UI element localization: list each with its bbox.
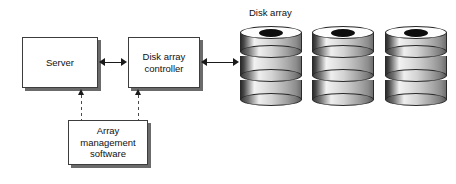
platter-bottom-ellipse xyxy=(312,69,374,82)
platter-bottom-ellipse xyxy=(385,45,447,58)
connector-dashed-shaft xyxy=(81,95,82,120)
connector-controller-to-disk-array xyxy=(201,58,239,67)
node-server[interactable]: Server xyxy=(22,37,98,88)
server-box-shadow-bottom xyxy=(25,88,101,91)
ams-box-shadow-right xyxy=(148,123,151,168)
diagram-canvas: Server Disk array controller Array manag… xyxy=(0,0,456,184)
disk-stack-3 xyxy=(385,26,447,100)
platter-bottom-ellipse xyxy=(240,45,302,58)
platter-bottom-ellipse xyxy=(385,93,447,106)
platter-bottom-ellipse xyxy=(240,69,302,82)
platter-bottom-ellipse xyxy=(385,69,447,82)
spindle-hole-icon xyxy=(404,29,428,37)
connector-ams-to-server xyxy=(78,89,85,120)
ams-label-line-3: software xyxy=(80,148,135,160)
platter-bottom-ellipse xyxy=(240,93,302,106)
arrowhead-right-icon xyxy=(121,58,127,66)
disk-stack-2 xyxy=(312,26,374,100)
node-disk-array-controller-label: Disk array controller xyxy=(143,51,186,74)
spindle-hole-icon xyxy=(331,29,355,37)
platter-bottom-ellipse xyxy=(312,93,374,106)
ams-label-line-2: management xyxy=(80,137,135,149)
connector-ams-to-controller xyxy=(135,89,142,120)
platter-bottom-ellipse xyxy=(312,45,374,58)
controller-label-line-2: controller xyxy=(143,63,186,75)
node-array-management-software[interactable]: Array management software xyxy=(68,120,148,165)
disk-array-caption: Disk array xyxy=(249,7,292,18)
connector-shaft xyxy=(103,62,123,63)
controller-label-line-1: Disk array xyxy=(143,51,186,63)
spindle-hole-icon xyxy=(259,29,283,37)
ams-box-shadow-bottom xyxy=(71,165,151,168)
connector-shaft xyxy=(205,62,235,63)
ams-label-line-1: Array xyxy=(80,125,135,137)
disk-platter xyxy=(385,26,447,52)
disk-platter xyxy=(240,26,302,52)
node-array-management-software-label: Array management software xyxy=(80,125,135,160)
connector-server-to-controller xyxy=(99,58,127,67)
node-disk-array-controller[interactable]: Disk array controller xyxy=(128,37,200,88)
disk-platter xyxy=(312,26,374,52)
node-server-label: Server xyxy=(46,57,74,69)
connector-dashed-shaft xyxy=(138,95,139,120)
arrowhead-right-icon xyxy=(233,58,239,66)
disk-stack-1 xyxy=(240,26,302,100)
